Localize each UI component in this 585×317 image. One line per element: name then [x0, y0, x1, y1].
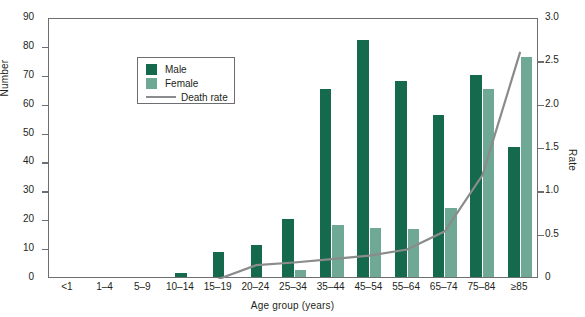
bar-female: [295, 270, 307, 277]
bar-female: [332, 225, 344, 277]
y-tick-label-right: 0.5: [545, 228, 579, 239]
plot-area: Male Female Death rate: [48, 18, 538, 278]
x-tick-label: 1–4: [86, 281, 124, 292]
x-tick-label: 5–9: [123, 281, 161, 292]
bar-female: [521, 57, 533, 277]
plot-inner: [49, 19, 537, 277]
y-tick-mark-right: [538, 235, 544, 236]
y-tick-mark-right: [538, 148, 544, 149]
x-tick-label: 75–84: [463, 281, 501, 292]
y-tick-label-left: 30: [4, 184, 34, 195]
chart-figure: Number Rate Age group (years) 0102030405…: [0, 0, 585, 317]
y-tick-label-left: 40: [4, 155, 34, 166]
x-tick-label: 15–19: [199, 281, 237, 292]
bar-male: [213, 252, 225, 277]
y-tick-label-right: 3.0: [545, 11, 579, 22]
bar-male: [282, 219, 294, 277]
x-tick-label: 10–14: [161, 281, 199, 292]
y-tick-label-left: 90: [4, 11, 34, 22]
y-tick-label-left: 70: [4, 69, 34, 80]
x-tick-label: ≥85: [500, 281, 538, 292]
male-swatch: [146, 64, 157, 75]
y-tick-label-left: 0: [4, 271, 34, 282]
death-rate-line: [49, 19, 539, 279]
legend-label-female: Female: [165, 78, 198, 89]
y-tick-mark-right: [538, 105, 544, 106]
legend-item-male: Male: [146, 62, 187, 76]
bar-male: [433, 115, 445, 277]
x-tick-label: 65–74: [425, 281, 463, 292]
bar-male: [175, 273, 187, 277]
y-tick-label-right: 1.0: [545, 184, 579, 195]
y-tick-label-left: 60: [4, 98, 34, 109]
x-tick-label: 25–34: [274, 281, 312, 292]
bar-female: [408, 229, 420, 277]
y-tick-label-left: 80: [4, 40, 34, 51]
x-tick-label: 20–24: [236, 281, 274, 292]
line-swatch: [146, 96, 176, 98]
legend-item-female: Female: [146, 76, 198, 90]
bar-male: [470, 75, 482, 277]
legend-label-male: Male: [165, 64, 187, 75]
legend-item-death-rate: Death rate: [146, 90, 228, 104]
legend-label-death-rate: Death rate: [181, 92, 228, 103]
bar-male: [320, 89, 332, 277]
y-tick-label-right: 2.0: [545, 98, 579, 109]
y-tick-label-right: 0: [545, 271, 579, 282]
y-tick-label-left: 20: [4, 213, 34, 224]
x-tick-label: 45–54: [350, 281, 388, 292]
legend: Male Female Death rate: [137, 57, 235, 104]
x-tick-label: 55–64: [387, 281, 425, 292]
y-tick-label-left: 10: [4, 242, 34, 253]
bar-female: [445, 208, 457, 277]
x-axis-title: Age group (years): [0, 300, 585, 311]
y-tick-mark-right: [538, 61, 544, 62]
bar-male: [395, 81, 407, 277]
x-tick-label: 35–44: [312, 281, 350, 292]
y-tick-mark-right: [538, 191, 544, 192]
y-tick-label-left: 50: [4, 127, 34, 138]
x-tick-label: <1: [48, 281, 86, 292]
bar-female: [370, 228, 382, 277]
bar-male: [251, 245, 263, 277]
female-swatch: [146, 78, 157, 89]
bar-male: [357, 40, 369, 277]
bar-female: [483, 89, 495, 277]
bar-male: [508, 147, 520, 277]
y-tick-label-right: 2.5: [545, 54, 579, 65]
y-tick-label-right: 1.5: [545, 141, 579, 152]
